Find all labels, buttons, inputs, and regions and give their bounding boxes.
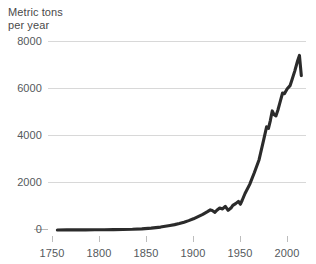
y-axis-tick-labels: 8000 6000 4000 2000 0 bbox=[17, 35, 42, 235]
x-tick-label-2000: 2000 bbox=[275, 247, 300, 259]
data-series-line bbox=[57, 55, 301, 230]
x-tick-label-1950: 1950 bbox=[228, 247, 253, 259]
x-tick-label-1750: 1750 bbox=[40, 247, 65, 259]
y-tick-label-8000: 8000 bbox=[17, 35, 42, 47]
x-tick-label-1850: 1850 bbox=[134, 247, 159, 259]
chart-canvas: 8000 6000 4000 2000 0 1750 1800 1850 190… bbox=[0, 0, 316, 264]
x-axis-tick-labels: 1750 1800 1850 1900 1950 2000 bbox=[40, 247, 300, 259]
y-tick-label-4000: 4000 bbox=[17, 129, 42, 141]
y-tick-label-6000: 6000 bbox=[17, 82, 42, 94]
x-tick-label-1900: 1900 bbox=[181, 247, 206, 259]
y-tick-label-2000: 2000 bbox=[17, 176, 42, 188]
x-axis-ticks bbox=[53, 236, 288, 242]
y-tick-label-0: 0 bbox=[36, 223, 42, 235]
x-tick-label-1800: 1800 bbox=[87, 247, 112, 259]
emissions-line-chart: Metric tonsper year 8000 6000 4000 2000 … bbox=[0, 0, 316, 264]
